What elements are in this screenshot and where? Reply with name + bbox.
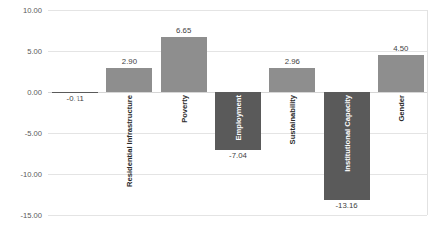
category-label: Gender [396, 95, 405, 122]
y-axis-tick-label: -5.00 [0, 129, 42, 138]
y-axis-tick-label: 0.00 [0, 88, 42, 97]
bar-value-label: 4.50 [393, 44, 408, 53]
chart-title-cropped [0, 0, 432, 4]
gridline [48, 215, 427, 216]
bar[interactable] [378, 55, 424, 92]
y-axis-tick-label: -15.00 [0, 211, 42, 220]
y-axis-tick-label: 10.00 [0, 6, 42, 15]
bar-group: -13.16Institutional Capacity [319, 10, 373, 215]
bar[interactable] [269, 68, 315, 92]
category-label: Employment [233, 95, 242, 141]
bar[interactable] [161, 37, 207, 92]
y-axis-tick-label: -10.00 [0, 170, 42, 179]
bar-group: -7.04Employment [211, 10, 265, 215]
plot-area: -0.11LCN Total2.90Residential Infrastruc… [48, 10, 428, 215]
bar[interactable] [106, 68, 152, 92]
bar-group: 2.96Sustainability [265, 10, 319, 215]
bar-value-label: 6.65 [176, 26, 191, 35]
bar-value-label: -7.04 [229, 151, 247, 160]
category-label: Poverty [179, 95, 188, 123]
bar-value-label: -13.16 [336, 201, 358, 210]
category-label: LCN Total [71, 95, 80, 130]
bar-group: -0.11LCN Total [48, 10, 102, 215]
bar-value-label: 2.96 [285, 57, 300, 66]
y-axis-tick-label: 5.00 [0, 47, 42, 56]
bar[interactable] [52, 92, 98, 93]
bar-group: 4.50Gender [374, 10, 428, 215]
bar-group: 2.90Residential Infrastructure [102, 10, 156, 215]
category-label: Sustainability [288, 95, 297, 144]
bar-value-label: 2.90 [122, 57, 137, 66]
bar-chart: -0.11LCN Total2.90Residential Infrastruc… [0, 0, 432, 229]
bar-group: 6.65Poverty [157, 10, 211, 215]
category-label: Residential Infrastructure [125, 95, 134, 187]
category-label: Institutional Capacity [342, 95, 351, 172]
